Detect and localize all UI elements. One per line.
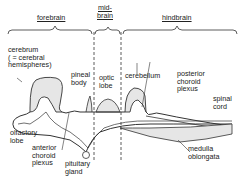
- cerebellum-label: cerebellum: [125, 72, 160, 80]
- cerebellum-shape: [125, 88, 146, 112]
- brain-diagram: forebrain mid- brain hindbrain cerebrum …: [0, 0, 243, 179]
- hindbrain-brace: [123, 26, 237, 34]
- anterior-choroid-plexus-label: anterior choroid plexus: [32, 144, 56, 167]
- medulla-oblongata-label: medulla oblongata: [188, 145, 220, 160]
- cerebrum-label: cerebrum ( = cerebral hemispheres): [8, 46, 52, 69]
- pituitary-gland-shape: [83, 152, 90, 159]
- region-dividers: [94, 32, 121, 162]
- midbrain-brace: [95, 27, 120, 34]
- hindbrain-label: hindbrain: [162, 14, 192, 22]
- medulla-oblongata-shape: [120, 124, 232, 142]
- midbrain-label: mid- brain: [97, 4, 113, 19]
- region-braces: [8, 26, 237, 34]
- dorsal-wall: [13, 111, 230, 128]
- pineal-body-label: pineal body: [71, 71, 90, 86]
- spinal-cord-label: spinal cord: [213, 95, 232, 110]
- posterior-choroid-plexus-label: posterior choroid plexus: [177, 70, 205, 93]
- forebrain-brace: [8, 26, 92, 34]
- pituitary-gland-label: pituitary gland: [65, 160, 90, 175]
- optic-lobe-shape: [96, 99, 120, 112]
- cerebrum-shape: [30, 77, 62, 112]
- optic-lobe-label: optic lobe: [99, 74, 114, 89]
- pineal-body-shape: [86, 96, 92, 112]
- olfactory-lobe-label: olfactory lobe: [10, 129, 37, 144]
- forebrain-label: forebrain: [37, 14, 65, 22]
